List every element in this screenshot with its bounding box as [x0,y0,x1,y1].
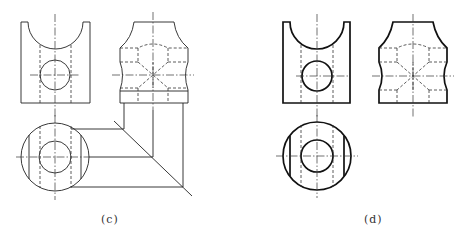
panel-c-label: (c) [101,213,119,226]
panel-d-top-view [276,115,358,198]
panel-c-side-view [112,12,194,110]
panel-d-side-view [372,14,454,118]
panel-c [16,12,194,200]
panel-d-front-view [283,14,350,118]
panel-d [276,14,454,198]
panel-c-front-view [21,14,90,118]
technical-drawing [0,0,454,235]
panel-c-projection-lines [71,103,192,196]
panel-d-label: (d) [364,213,383,226]
